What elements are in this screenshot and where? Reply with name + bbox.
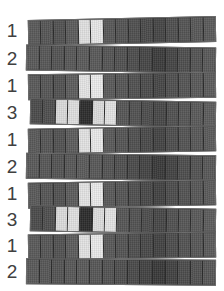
strip-cell — [115, 47, 128, 71]
strip-cell — [52, 154, 65, 178]
strip-cell — [41, 75, 54, 99]
strip-cell — [41, 20, 54, 44]
strip-cell — [29, 75, 42, 99]
strip-cell — [54, 235, 67, 259]
strip-cell — [54, 129, 67, 153]
strip-cell — [66, 75, 79, 99]
strip-cell — [105, 208, 118, 232]
strip-cell — [203, 261, 215, 285]
strip-cell — [153, 18, 166, 42]
strip-row — [26, 153, 216, 182]
row-label: 3 — [0, 210, 24, 229]
strip-cell — [91, 128, 104, 152]
strip-cell — [142, 208, 155, 232]
strip-row — [28, 125, 216, 154]
strip-cell — [178, 18, 191, 42]
strip-cell — [203, 210, 215, 234]
row-label: 1 — [0, 184, 24, 203]
row-label: 1 — [0, 21, 24, 40]
strip-cell — [55, 100, 68, 124]
strip-row — [28, 179, 216, 208]
strip-cell — [191, 102, 204, 126]
strip-cell — [79, 74, 92, 98]
row-label: 1 — [0, 236, 24, 255]
strip-cell — [43, 206, 56, 230]
strip-cell — [116, 19, 129, 43]
strip-cell — [52, 260, 65, 284]
strip-cell — [65, 260, 78, 284]
strip-cell — [77, 260, 90, 284]
strip-cell — [129, 234, 142, 258]
strip-cell — [154, 73, 167, 97]
strip-cell — [128, 19, 141, 43]
strip-cell — [166, 73, 179, 97]
strip-cell — [90, 260, 103, 284]
strip-cell — [140, 260, 153, 284]
strip-cell — [92, 207, 105, 231]
row-label: 1 — [0, 76, 24, 95]
strip-cell — [80, 100, 93, 124]
strip-cell — [65, 154, 78, 178]
strip-cell — [166, 127, 179, 151]
strip-cell — [29, 235, 42, 259]
strip-cell — [66, 183, 79, 207]
strip-cell — [102, 260, 115, 284]
strip-cell — [79, 20, 92, 44]
strip-cell — [191, 181, 204, 205]
strip-cell — [153, 48, 166, 72]
strip-cell — [166, 18, 179, 42]
strip-cell — [203, 126, 215, 150]
strip-cell — [153, 181, 166, 205]
strip-cell — [141, 234, 154, 258]
strip-cell — [52, 46, 65, 70]
strip-cell — [153, 127, 166, 151]
strip-cell — [179, 209, 192, 233]
strip-cell — [91, 74, 104, 98]
strip-row — [28, 16, 217, 46]
strip-cell — [191, 127, 204, 151]
strip-cell — [104, 182, 117, 206]
strip-cell — [166, 181, 179, 205]
strip-cell — [102, 47, 115, 71]
strip-cell — [203, 180, 215, 204]
strip-cell — [203, 103, 215, 127]
strip-cell — [129, 74, 142, 98]
strip-cell — [41, 129, 54, 153]
strip-cell — [178, 233, 191, 257]
strip-cell — [203, 73, 215, 97]
strip-cell — [115, 155, 128, 179]
strip-cell — [116, 182, 129, 206]
strip-cell — [79, 234, 92, 258]
strip-cell — [203, 17, 215, 41]
strip-cell — [191, 48, 204, 72]
strip-cell — [128, 155, 141, 179]
strip-cell — [27, 154, 40, 178]
strip-cell — [191, 209, 204, 233]
strip-cell — [31, 206, 44, 230]
strip-cell — [153, 233, 166, 257]
strip-cell — [43, 99, 56, 123]
strip-cell — [65, 46, 78, 70]
strip-cell — [29, 21, 42, 45]
strip-row — [26, 258, 216, 285]
strip-cell — [77, 46, 90, 70]
strip-cell — [153, 155, 166, 179]
strip-cell — [128, 47, 141, 71]
strip-cell — [140, 155, 153, 179]
strip-cell — [129, 101, 142, 125]
strip-cell — [54, 75, 67, 99]
row-label: 2 — [0, 157, 24, 176]
strip-cell — [104, 74, 117, 98]
strip-cell — [116, 74, 129, 98]
strip-cell — [77, 154, 90, 178]
strip-cell — [141, 127, 154, 151]
strip-cell — [102, 155, 115, 179]
strip-cell — [191, 260, 204, 284]
strip-cell — [203, 156, 215, 180]
strip-cell — [191, 233, 204, 257]
strip-cell — [140, 47, 153, 71]
strip-cell — [40, 259, 53, 283]
strip-cell — [31, 99, 44, 123]
strip-cell — [117, 208, 130, 232]
strip-cell — [191, 156, 204, 180]
